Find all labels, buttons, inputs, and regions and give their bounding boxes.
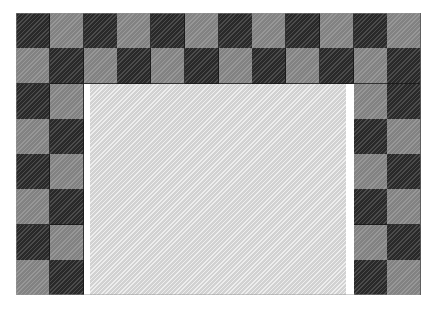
checker-tile	[50, 13, 84, 49]
checker-tile	[50, 119, 84, 155]
checker-tile	[151, 13, 185, 49]
checker-tile	[252, 48, 286, 84]
checker-tile	[387, 48, 421, 84]
checker-tile	[84, 48, 118, 84]
checker-tile	[16, 48, 50, 84]
checker-tile	[387, 260, 421, 295]
checker-tile	[354, 154, 388, 190]
tile-grid	[16, 13, 421, 295]
checker-tile	[387, 13, 421, 49]
checker-tile	[354, 119, 388, 155]
checker-tile	[117, 13, 151, 49]
checker-tile	[387, 154, 421, 190]
checker-tile	[16, 154, 50, 190]
checker-tile	[387, 189, 421, 225]
checker-tile	[286, 13, 320, 49]
checker-tile	[387, 225, 421, 261]
checker-tile	[387, 119, 421, 155]
checker-tile	[185, 48, 219, 84]
checker-tile	[354, 48, 388, 84]
artwork-canvas	[0, 0, 443, 320]
checker-tile	[219, 48, 253, 84]
checker-tile	[117, 48, 151, 84]
checker-tile	[354, 189, 388, 225]
checker-tile	[50, 189, 84, 225]
checker-tile	[354, 13, 388, 49]
checker-tile	[185, 13, 219, 49]
checker-tile	[16, 189, 50, 225]
checker-tile	[50, 260, 84, 295]
checker-tile	[320, 48, 354, 84]
checker-tile	[16, 119, 50, 155]
checker-tile	[16, 84, 50, 120]
checker-tile	[50, 84, 84, 120]
checker-tile	[387, 84, 421, 120]
checker-tile	[84, 13, 118, 49]
checker-tile	[354, 84, 388, 120]
checker-tile	[219, 13, 253, 49]
checker-tile	[354, 260, 388, 295]
checker-tile	[16, 225, 50, 261]
checker-tile	[320, 13, 354, 49]
checker-tile	[16, 13, 50, 49]
checker-tile	[16, 260, 50, 295]
checkerboard-frame	[16, 13, 421, 295]
checker-tile	[50, 48, 84, 84]
checker-tile	[354, 225, 388, 261]
checker-tile	[286, 48, 320, 84]
checker-tile	[50, 225, 84, 261]
checker-tile	[151, 48, 185, 84]
checker-tile	[50, 154, 84, 190]
checker-tile	[252, 13, 286, 49]
